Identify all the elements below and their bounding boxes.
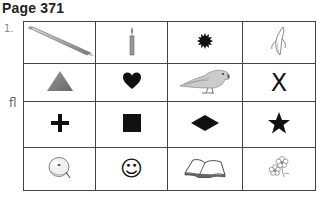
heart-icon — [122, 72, 142, 90]
smiley-icon: ☺ — [120, 156, 143, 181]
grid-cell-flowers — [243, 148, 316, 191]
x-mark-icon: X — [271, 69, 287, 97]
starburst-icon — [197, 33, 213, 49]
grid-row — [24, 102, 316, 148]
grid-cell-apple — [24, 148, 96, 191]
flowers-icon — [267, 155, 291, 179]
page-title: Page 371 — [2, 0, 64, 16]
star-icon — [267, 111, 291, 135]
plus-icon — [50, 113, 70, 133]
triangle-icon — [46, 70, 74, 92]
grid-cell-starburst — [168, 22, 243, 64]
grid-cell-diamond — [168, 102, 243, 148]
grid-cell-triangle — [24, 64, 96, 102]
book-icon — [183, 156, 227, 178]
grid-cell-heart — [96, 64, 168, 102]
grid-cell-candle — [96, 22, 168, 64]
parrot-icon — [178, 66, 232, 96]
grid-row: X — [24, 64, 316, 102]
pencil-icon — [25, 25, 95, 57]
diamond-icon — [190, 114, 220, 132]
grid-cell-star — [243, 102, 316, 148]
picture-grid: X — [23, 21, 316, 191]
exercise-number: 1. — [4, 23, 14, 34]
grid-cell-banana — [243, 22, 316, 64]
candle-icon — [127, 26, 137, 56]
grid-cell-pencil — [24, 22, 96, 64]
grid-row — [24, 22, 316, 64]
grid-cell-square — [96, 102, 168, 148]
side-label: fl — [9, 96, 17, 110]
apple-icon — [47, 154, 73, 180]
square-icon — [122, 113, 142, 133]
grid-cell-x: X — [243, 64, 316, 102]
grid-cell-parrot — [168, 64, 243, 102]
grid-row: ☺ — [24, 148, 316, 191]
grid-cell-plus — [24, 102, 96, 148]
banana-icon — [268, 25, 290, 57]
grid-cell-book — [168, 148, 243, 191]
grid-cell-smiley: ☺ — [96, 148, 168, 191]
